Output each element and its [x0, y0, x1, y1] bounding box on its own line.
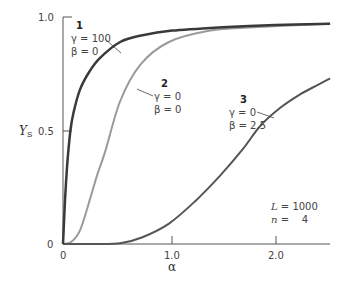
param-L: L = 1000	[270, 201, 318, 212]
ytick-label-05: 0.5	[38, 126, 54, 137]
curve-2-leader	[137, 89, 153, 96]
curve-1-gamma: γ = 100	[71, 33, 111, 44]
curve-2-beta: β = 0	[154, 104, 181, 115]
curve-3-beta: β = 2.5	[229, 120, 266, 131]
x-axis-label: α	[168, 260, 176, 274]
curve-2-gamma: γ = 0	[154, 91, 181, 102]
ytick-label-1: 1.0	[38, 12, 54, 23]
param-n: n = 4	[271, 214, 308, 225]
curve-3-gamma: γ = 0	[229, 107, 256, 118]
line-chart: 1.0 0.5 0 0 1.0 2.0 YS α 1 γ = 100 β = 0…	[0, 0, 344, 282]
curve-3-number: 3	[240, 94, 247, 105]
curve-2-number: 2	[161, 78, 168, 89]
curve-1-beta: β = 0	[71, 46, 98, 57]
ytick-label-0: 0	[47, 239, 53, 250]
xtick-label-2: 2.0	[268, 250, 284, 261]
y-axis-label: YS	[19, 124, 32, 139]
xtick-label-0: 0	[60, 250, 66, 261]
curve-1-number: 1	[76, 20, 83, 31]
